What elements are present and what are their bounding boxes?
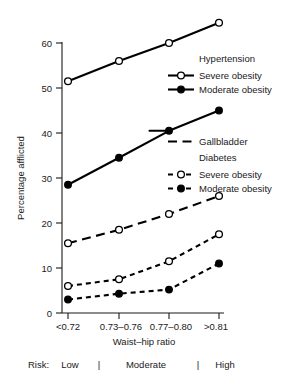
legend-heading-diabetes: Diabetes xyxy=(199,152,237,163)
data-point xyxy=(116,58,123,65)
risk-band-moderate: Moderate xyxy=(126,359,166,370)
x-tick-label-2: 0.73–0.76 xyxy=(100,321,142,332)
chart-figure: 60 50 40 30 20 10 0 Percentage afflicted… xyxy=(0,0,290,378)
data-point xyxy=(166,258,173,265)
filled-circle-icon xyxy=(178,185,185,192)
data-point xyxy=(65,296,72,303)
legend-label-moderate-obesity: Moderate obesity xyxy=(199,183,272,194)
legend-entry-diabetes-severe: Severe obesity xyxy=(168,169,262,180)
data-point xyxy=(116,155,123,162)
risk-band-low: Low xyxy=(61,359,79,370)
y-tick-label-20: 20 xyxy=(41,218,52,229)
y-axis-title: Percentage afflicted xyxy=(15,136,26,220)
open-circle-icon xyxy=(178,171,185,178)
data-point xyxy=(65,283,72,290)
data-point xyxy=(65,78,72,85)
x-tick-label-4: >0.81 xyxy=(204,321,228,332)
data-point xyxy=(166,211,173,218)
waist-hip-ratio-line-chart: 60 50 40 30 20 10 0 Percentage afflicted… xyxy=(0,0,290,378)
data-point xyxy=(166,128,173,135)
legend-label-severe-obesity: Severe obesity xyxy=(199,169,262,180)
legend-label-moderate-obesity: Moderate obesity xyxy=(199,84,272,95)
legend-label-gallbladder: Gallbladder xyxy=(199,136,248,147)
risk-band-high: High xyxy=(215,359,235,370)
y-tick-label-30: 30 xyxy=(41,173,52,184)
data-point xyxy=(116,226,123,233)
legend-label-severe-obesity: Severe obesity xyxy=(199,70,262,81)
y-tick-label-50: 50 xyxy=(41,83,52,94)
data-point xyxy=(166,286,173,293)
data-point xyxy=(166,40,173,47)
data-point xyxy=(216,19,223,26)
data-point xyxy=(65,182,72,189)
data-point xyxy=(216,107,223,114)
x-tick-label-1: <0.72 xyxy=(56,321,80,332)
risk-row-label: Risk: xyxy=(28,359,49,370)
y-tick-label-10: 10 xyxy=(41,263,52,274)
data-point xyxy=(65,240,72,247)
legend-heading-hypertension: Hypertension xyxy=(199,53,255,64)
data-point xyxy=(116,276,123,283)
y-tick-label-40: 40 xyxy=(41,128,52,139)
data-point xyxy=(216,231,223,238)
y-tick-label-60: 60 xyxy=(41,38,52,49)
filled-circle-icon xyxy=(178,86,185,93)
x-tick-label-3: 0.77–0.80 xyxy=(150,321,192,332)
y-tick-label-0: 0 xyxy=(47,308,52,319)
data-point xyxy=(216,260,223,267)
open-circle-icon xyxy=(178,72,185,79)
x-axis-title: Waist–hip ratio xyxy=(113,336,175,347)
legend-entry-hypertension-severe: Severe obesity xyxy=(168,70,262,81)
risk-separator-2: | xyxy=(197,359,199,370)
data-point xyxy=(116,290,123,297)
risk-separator-1: | xyxy=(98,359,100,370)
